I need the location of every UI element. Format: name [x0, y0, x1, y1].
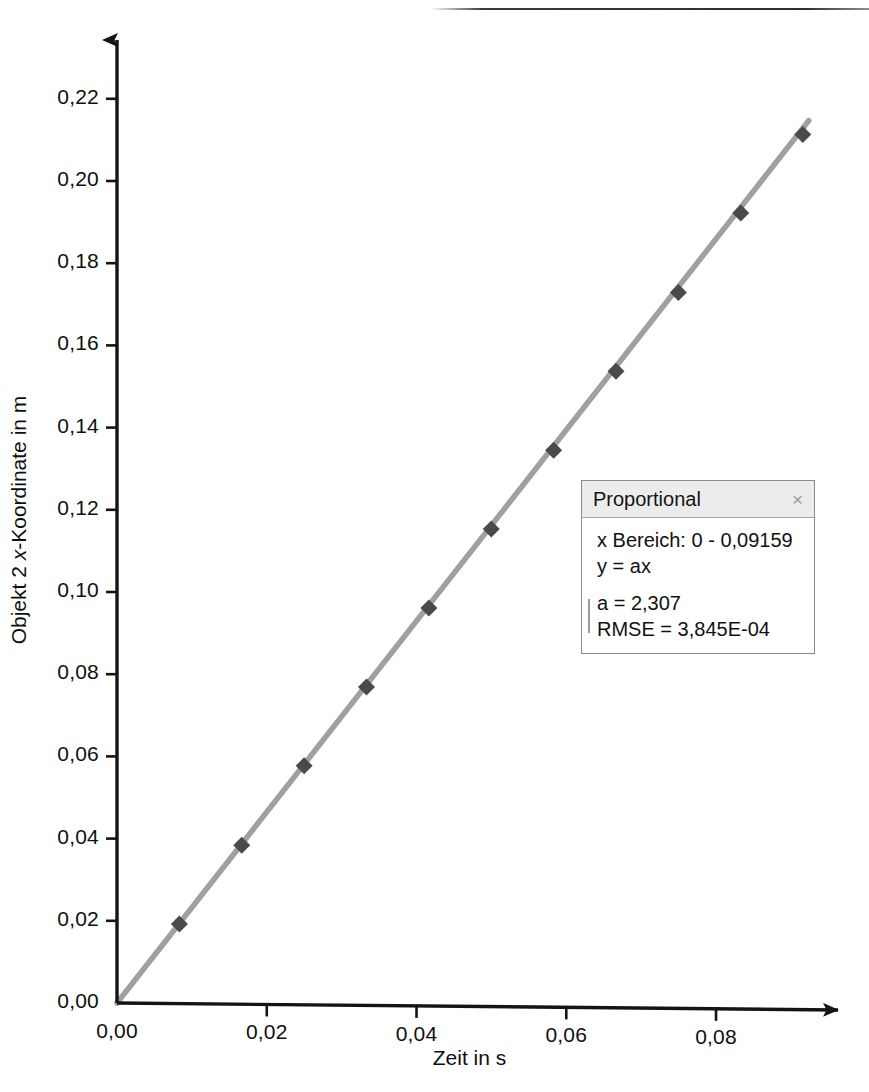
y-axis-tick-label: 0,08 [0, 660, 99, 684]
legend-spacer [597, 579, 804, 590]
fit-param-a-text: a = 2,307 [597, 590, 804, 616]
data-point-marker [794, 126, 811, 143]
x-axis-line [117, 1003, 838, 1010]
y-axis-tick-label: 0,12 [0, 496, 99, 520]
y-axis-tick-label: 0,10 [0, 578, 99, 602]
x-axis-tick-label: 0,06 [506, 1023, 626, 1047]
y-axis-tick-label: 0,18 [0, 249, 99, 273]
fit-param-rmse-text: RMSE = 3,845E-04 [597, 616, 804, 642]
x-axis-tick-label: 0,02 [207, 1020, 327, 1044]
y-axis-tick-label: 0,04 [0, 825, 99, 849]
fit-legend-title: Proportional [593, 488, 789, 511]
x-axis-tick-label: 0,08 [656, 1025, 776, 1049]
y-axis-tick-label: 0,00 [0, 989, 99, 1013]
y-axis-tick-label: 0,02 [0, 907, 99, 931]
fit-legend-panel[interactable]: Proportional × x Bereich: 0 - 0,09159 y … [581, 480, 815, 654]
x-axis-tick-label: 0,04 [357, 1022, 477, 1046]
series-color-swatch [588, 599, 590, 633]
fit-model-text: y = ax [597, 553, 804, 579]
y-axis-tick-label: 0,06 [0, 742, 99, 766]
fit-legend-header: Proportional × [582, 481, 814, 518]
fit-legend-body: x Bereich: 0 - 0,09159 y = ax a = 2,307 … [582, 518, 814, 653]
close-icon[interactable]: × [789, 488, 806, 511]
fit-range-text: x Bereich: 0 - 0,09159 [597, 527, 804, 553]
y-axis-tick-label: 0,20 [0, 167, 99, 191]
y-axis-tick-label: 0,22 [0, 85, 99, 109]
x-axis-tick-label: 0,00 [57, 1019, 177, 1043]
y-axis-tick-label: 0,14 [0, 414, 99, 438]
y-axis-tick-label: 0,16 [0, 331, 99, 355]
